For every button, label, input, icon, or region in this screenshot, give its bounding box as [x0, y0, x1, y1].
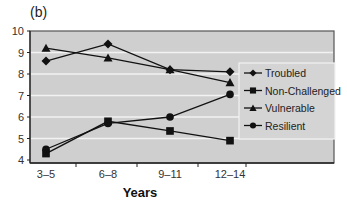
y-tick-label: 10 [12, 25, 24, 37]
circle-marker [104, 120, 112, 128]
x-tick-label: 9–11 [158, 168, 182, 180]
y-tick-label: 5 [18, 133, 24, 145]
x-axis-title: Years [123, 185, 158, 200]
x-tick-label: 6–8 [99, 168, 117, 180]
square-marker [226, 137, 234, 145]
panel-label: (b) [30, 4, 47, 20]
y-tick-label: 6 [18, 111, 24, 123]
circle-marker [226, 91, 234, 99]
y-tick-label: 9 [18, 47, 24, 59]
line-chart: (b) 45678910 3–56–89–1112–14 Years Troub… [0, 0, 347, 209]
y-tick-label: 7 [18, 90, 24, 102]
y-axis: 45678910 [12, 25, 30, 166]
circle-marker [166, 113, 174, 121]
x-tick-label: 12–14 [215, 168, 246, 180]
legend-label: Troubled [265, 67, 306, 79]
x-tick-label: 3–5 [37, 168, 55, 180]
square-marker [166, 127, 174, 135]
legend-label: Non-Challenged [265, 85, 341, 97]
legend-label: Resilient [265, 120, 305, 132]
circle-marker [42, 145, 50, 153]
circle-marker [250, 122, 256, 128]
y-tick-label: 8 [18, 68, 24, 80]
legend-label: Vulnerable [265, 102, 315, 114]
y-tick-label: 4 [18, 154, 24, 166]
x-axis: 3–56–89–1112–14 [30, 163, 334, 180]
legend: TroubledNon-ChallengedVulnerableResilien… [239, 63, 341, 139]
square-marker [250, 87, 256, 93]
